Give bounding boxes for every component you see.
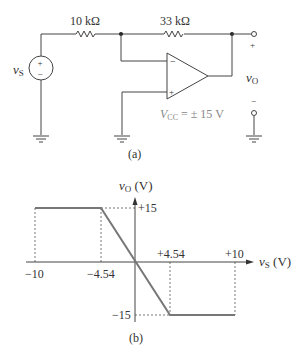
tick-neg15: −15 <box>112 308 131 322</box>
ground-icon <box>114 136 130 142</box>
r1-label: 10 kΩ <box>70 14 100 28</box>
tick-neg454: −4.54 <box>87 267 115 281</box>
vcc-label: VCC = ± 15 V <box>160 107 224 122</box>
tick-pos15: +15 <box>138 201 157 215</box>
tick-pos454: +4.54 <box>157 247 185 261</box>
caption-a: (a) <box>128 147 141 161</box>
figure: 10 kΩ 33 kΩ vS + − − + + vO − VCC = ± 15… <box>0 0 302 357</box>
source-minus-sign: − <box>38 69 43 79</box>
resistor-10k-icon <box>76 31 95 37</box>
output-minus-sign: − <box>251 96 256 106</box>
wire-inverting-input <box>121 34 167 61</box>
output-label: vO <box>246 70 259 86</box>
wire-output <box>208 34 232 76</box>
circuit-diagram: 10 kΩ 33 kΩ vS + − − + + vO − VCC = ± 15… <box>13 14 262 161</box>
ground-icon <box>246 136 262 142</box>
opamp-minus-sign: − <box>170 56 176 67</box>
source-plus-sign: + <box>38 58 43 68</box>
y-axis-arrow-icon <box>133 197 138 205</box>
tick-neg10: −10 <box>25 267 44 281</box>
y-axis-label: vO (V) <box>119 178 153 194</box>
output-plus-sign: + <box>250 40 255 50</box>
transfer-characteristic-chart: vO (V) vS (V) +15 −15 −10 −4.54 +4.54 +1… <box>25 178 291 345</box>
x-axis-arrow-icon <box>246 260 254 265</box>
output-terminal-minus-icon <box>252 111 257 116</box>
caption-b: (b) <box>129 331 143 345</box>
r2-label: 33 kΩ <box>160 14 190 28</box>
source-label: vS <box>13 62 24 78</box>
opamp-plus-sign: + <box>169 87 174 97</box>
ground-icon <box>33 136 49 142</box>
output-terminal-plus-icon <box>252 32 257 37</box>
x-axis-label: vS (V) <box>259 254 291 270</box>
tick-pos10: +10 <box>225 247 244 261</box>
